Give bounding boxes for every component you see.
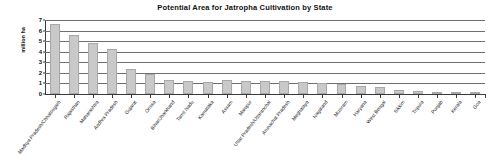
bar-slot xyxy=(447,20,466,94)
y-tick-label: 4 xyxy=(39,49,42,55)
bar xyxy=(356,86,366,94)
x-tick-mark xyxy=(475,95,476,98)
bar-slot xyxy=(198,20,217,94)
bar-slot xyxy=(294,20,313,94)
bar-slot xyxy=(179,20,198,94)
x-category-label: Karnataka xyxy=(196,99,214,120)
bar xyxy=(317,83,327,94)
y-tick-label: 2 xyxy=(39,70,42,76)
bar-slot xyxy=(160,20,179,94)
x-category-label: Goa xyxy=(472,99,482,110)
x-tick-mark xyxy=(380,95,381,98)
bar xyxy=(260,81,270,94)
bar-slot xyxy=(370,20,389,94)
bar xyxy=(203,82,213,94)
x-category-label: Mizoram xyxy=(332,99,348,118)
x-category-label: Orissa xyxy=(143,99,156,114)
x-category-label: Manipur xyxy=(237,99,253,117)
x-category-label: Nagaland xyxy=(311,99,329,119)
bar-slot xyxy=(428,20,447,94)
x-tick-mark xyxy=(485,95,486,98)
x-tick-mark xyxy=(399,95,400,98)
bar xyxy=(337,84,347,94)
bar-slot xyxy=(122,20,141,94)
bar xyxy=(145,74,155,94)
x-tick-mark xyxy=(188,95,189,98)
bar xyxy=(432,92,442,94)
x-tick-mark xyxy=(169,95,170,98)
x-category-label: Haryana xyxy=(351,99,367,117)
bar-slot xyxy=(313,20,332,94)
x-category-label: Kerala xyxy=(450,99,463,114)
x-tick-mark xyxy=(303,95,304,98)
bar xyxy=(107,49,117,94)
y-tick-label: 7 xyxy=(39,17,42,23)
x-category-label: Madhya Pradesh/Chhattisgarh xyxy=(16,99,61,155)
bar xyxy=(50,24,60,94)
x-category-label: West Bengal xyxy=(365,99,387,125)
bar xyxy=(184,81,194,94)
bar xyxy=(451,92,461,94)
bar-slot xyxy=(141,20,160,94)
y-tick-label: 3 xyxy=(39,59,42,65)
bar xyxy=(164,80,174,94)
x-tick-mark xyxy=(208,95,209,98)
chart-container: Potential Area for Jatropha Cultivation … xyxy=(0,0,490,168)
bar xyxy=(375,87,385,94)
bar-slot xyxy=(45,20,64,94)
x-category-label: Meghalaya xyxy=(290,99,310,122)
bar-series xyxy=(45,20,485,94)
y-tick-label: 0 xyxy=(39,91,42,97)
bar-slot xyxy=(275,20,294,94)
x-category-label: Tripura xyxy=(411,99,425,115)
x-tick-mark xyxy=(93,95,94,98)
bar xyxy=(126,69,136,94)
bar-slot xyxy=(466,20,485,94)
bar-slot xyxy=(332,20,351,94)
x-tick-mark xyxy=(361,95,362,98)
x-tick-mark xyxy=(227,95,228,98)
bar xyxy=(470,92,480,94)
x-tick-mark xyxy=(55,95,56,98)
x-tick-mark xyxy=(437,95,438,98)
bar xyxy=(279,81,289,94)
x-tick-mark xyxy=(342,95,343,98)
bar-slot xyxy=(255,20,274,94)
x-tick-mark xyxy=(322,95,323,98)
bar-slot xyxy=(64,20,83,94)
bar-slot xyxy=(217,20,236,94)
x-category-label: Assam xyxy=(219,99,233,115)
x-tick-mark xyxy=(112,95,113,98)
bar xyxy=(298,82,308,94)
x-tick-mark xyxy=(74,95,75,98)
bar xyxy=(88,43,98,94)
y-tick-label: 6 xyxy=(39,28,42,34)
bar xyxy=(69,35,79,94)
bar-slot xyxy=(236,20,255,94)
y-tick-label: 5 xyxy=(39,38,42,44)
bar-slot xyxy=(83,20,102,94)
x-tick-mark xyxy=(265,95,266,98)
x-tick-mark xyxy=(150,95,151,98)
x-category-label: Gujarat xyxy=(123,99,138,115)
x-tick-mark xyxy=(456,95,457,98)
chart-title: Potential Area for Jatropha Cultivation … xyxy=(0,3,490,12)
x-category-label: Sikkim xyxy=(392,99,406,114)
bar xyxy=(222,80,232,94)
bar-slot xyxy=(351,20,370,94)
x-tick-mark xyxy=(418,95,419,98)
x-category-label: Punjab xyxy=(430,99,444,115)
bar-slot xyxy=(408,20,427,94)
y-tick-label: 1 xyxy=(39,80,42,86)
x-tick-mark xyxy=(246,95,247,98)
bar xyxy=(413,91,423,94)
x-tick-mark xyxy=(284,95,285,98)
x-tick-mark xyxy=(131,95,132,98)
x-category-label: Rajasthan xyxy=(62,99,80,120)
x-category-label: Tamil Nadu xyxy=(175,99,195,122)
bar xyxy=(241,81,251,94)
y-axis-label: million ha xyxy=(20,19,26,61)
bar-slot xyxy=(102,20,121,94)
bar xyxy=(394,90,404,94)
bar-slot xyxy=(389,20,408,94)
